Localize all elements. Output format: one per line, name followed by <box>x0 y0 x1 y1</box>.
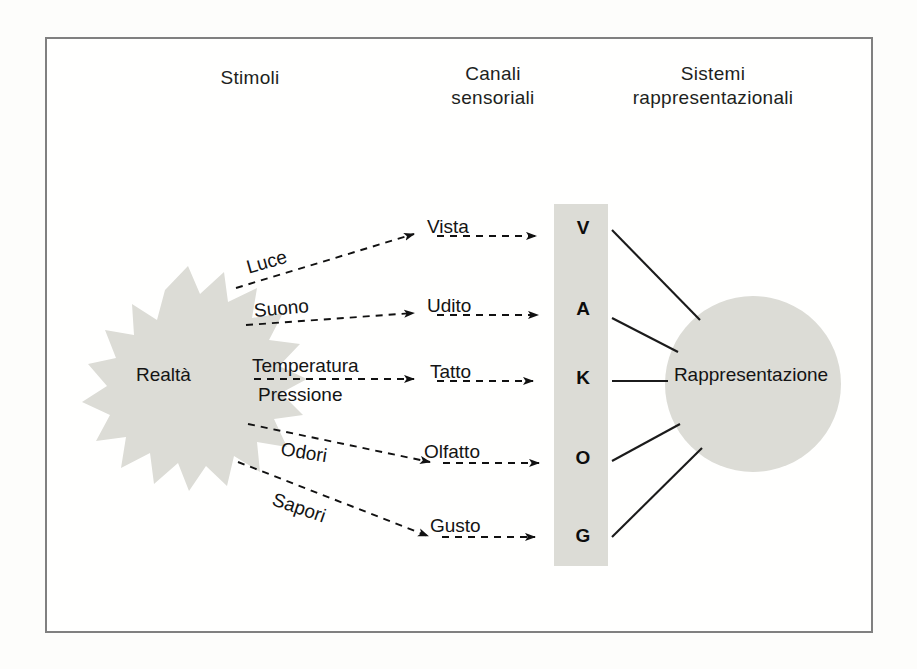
channel-label-gusto: Gusto <box>430 515 481 537</box>
column-heading-sistemi-rappresentazionali: Sistemi rappresentazionali <box>588 62 838 110</box>
channel-label-udito: Udito <box>427 295 471 317</box>
node-label-rappresentazione: Rappresentazione <box>648 364 854 386</box>
stimulus-label-pressione: Pressione <box>258 384 343 406</box>
stimulus-label-temperatura: Temperatura <box>252 355 359 377</box>
system-letter-k: K <box>570 367 596 389</box>
system-letter-g: G <box>570 525 596 547</box>
channel-label-olfatto: Olfatto <box>424 441 480 463</box>
system-letter-o: O <box>570 447 596 469</box>
channel-label-vista: Vista <box>427 216 469 238</box>
column-heading-canali-sensoriali: Canali sensoriali <box>408 62 578 110</box>
diagram-page: Stimoli Canali sensoriali Sistemi rappre… <box>0 0 917 669</box>
system-letter-a: A <box>570 298 596 320</box>
channel-label-tatto: Tatto <box>430 361 471 383</box>
column-heading-stimoli: Stimoli <box>160 66 340 90</box>
system-letter-v: V <box>570 217 596 239</box>
